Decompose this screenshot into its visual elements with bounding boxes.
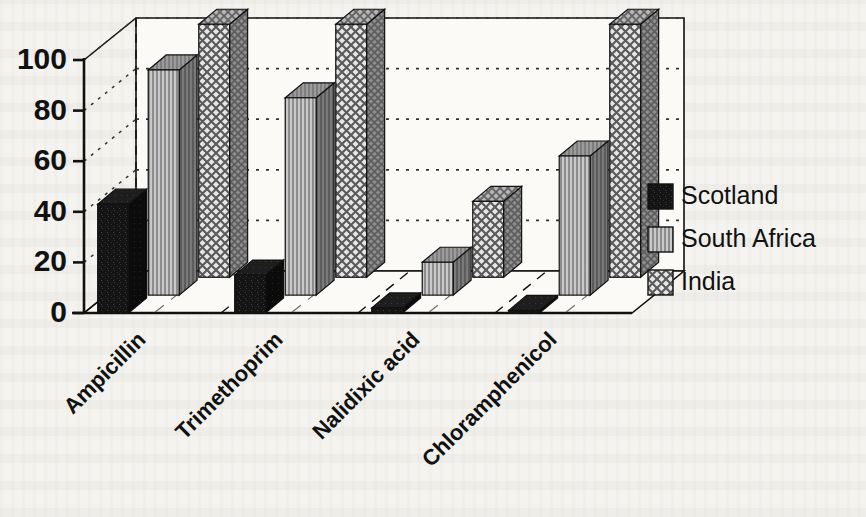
legend-swatch — [648, 270, 673, 295]
category-label: Ampicillin — [59, 327, 151, 419]
category-labels: AmpicillinTrimethoprimNalidixic acidChlo… — [59, 327, 562, 472]
legend-item: India — [648, 267, 735, 295]
bar-side-face — [316, 83, 334, 295]
bar-side-face — [590, 141, 608, 295]
category-label: Chloramphenicol — [417, 327, 562, 472]
bar-front-face — [98, 204, 129, 313]
bar-front-face — [148, 70, 179, 295]
chart-canvas: 020406080100 AmpicillinTrimethoprimNalid… — [0, 0, 866, 517]
bar-front-face — [285, 98, 316, 295]
legend-label: Scotland — [681, 181, 778, 209]
bar-side-face — [230, 9, 248, 277]
bar-front-face — [199, 24, 230, 277]
bar-chart-3d: 020406080100 AmpicillinTrimethoprimNalid… — [0, 0, 866, 517]
category-label: Trimethoprim — [170, 327, 287, 444]
y-axis-tick-label: 80 — [34, 93, 67, 126]
bar — [473, 186, 522, 277]
category-label: Nalidixic acid — [307, 327, 424, 444]
legend-item: South Africa — [648, 224, 816, 252]
y-axis-tick-label: 60 — [34, 143, 67, 176]
bar-front-face — [509, 310, 540, 313]
bar-front-face — [473, 201, 504, 277]
bar — [148, 55, 197, 295]
bar — [285, 83, 334, 295]
y-axis-tick-label: 100 — [17, 42, 67, 75]
legend-swatch — [648, 184, 673, 209]
legend-label: India — [681, 267, 735, 295]
bar — [336, 9, 385, 277]
bar-front-face — [610, 24, 641, 277]
y-axis-tick-label: 40 — [34, 194, 67, 227]
bar — [559, 141, 608, 295]
bar-front-face — [559, 156, 590, 295]
legend-swatch — [648, 227, 673, 252]
bar-front-face — [336, 24, 367, 277]
bar-side-face — [504, 186, 522, 277]
bar-front-face — [235, 275, 266, 313]
bar-side-face — [367, 9, 385, 277]
bar-side-face — [129, 189, 147, 313]
bar-side-face — [179, 55, 197, 295]
y-axis-tick-label: 0 — [50, 295, 67, 328]
legend: ScotlandSouth AfricaIndia — [648, 181, 816, 295]
legend-label: South Africa — [681, 224, 816, 252]
legend-item: Scotland — [648, 181, 778, 209]
y-axis-tick-label: 20 — [34, 244, 67, 277]
bar-front-face — [422, 262, 453, 295]
bar-front-face — [372, 308, 403, 313]
bar — [199, 9, 248, 277]
bar — [98, 189, 147, 313]
